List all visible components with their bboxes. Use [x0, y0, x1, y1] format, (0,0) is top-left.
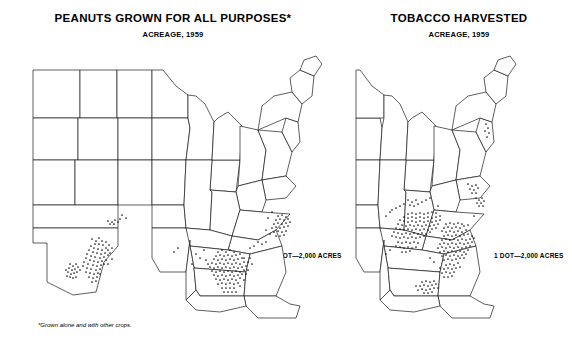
tobacco-map-panel: TOBACCO HARVESTED ACREAGE, 1959 1 DOT—2,… [346, 0, 572, 350]
peanuts-map-graphic [0, 0, 346, 350]
state-boundaries [356, 56, 516, 318]
peanuts-map-panel: PEANUTS GROWN FOR ALL PURPOSES* ACREAGE,… [0, 0, 346, 350]
state-boundaries [33, 56, 322, 318]
tobacco-map-graphic [346, 0, 572, 350]
